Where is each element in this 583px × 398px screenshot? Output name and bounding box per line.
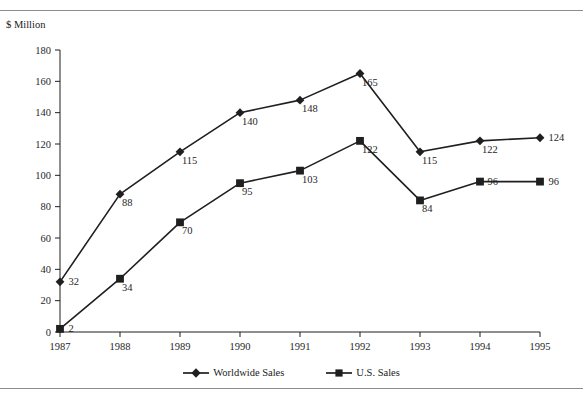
x-axis-tick-label: 1991: [290, 341, 311, 352]
data-point-marker-worldwide-sales: [56, 277, 65, 286]
data-point-marker-u-s-sales: [536, 178, 544, 186]
data-point-label-u-s-sales: 96: [548, 176, 559, 187]
series-line-worldwide-sales: [60, 74, 540, 282]
data-point-label-worldwide-sales: 140: [242, 116, 258, 127]
legend-label-worldwide-sales: Worldwide Sales: [213, 367, 284, 379]
y-axis-tick-label: 140: [35, 107, 51, 118]
data-point-label-u-s-sales: 103: [302, 174, 318, 185]
x-axis-tick-label: 1990: [230, 341, 251, 352]
line-chart-plot: 0204060801001201401601801987198819891990…: [0, 0, 583, 398]
square-marker-icon: [326, 367, 352, 379]
diamond-marker-icon: [183, 367, 209, 379]
y-axis-tick-label: 80: [41, 201, 52, 212]
legend-item-us-sales: U.S. Sales: [326, 367, 399, 379]
x-axis-tick-label: 1987: [50, 341, 71, 352]
bottom-divider-rule: [0, 388, 583, 389]
data-point-label-worldwide-sales: 122: [482, 144, 498, 155]
chart-legend: Worldwide Sales U.S. Sales: [0, 364, 583, 382]
x-axis-tick-label: 1993: [410, 341, 431, 352]
data-point-label-worldwide-sales: 165: [362, 77, 378, 88]
y-axis-tick-label: 120: [35, 139, 51, 150]
legend-item-worldwide-sales: Worldwide Sales: [183, 367, 284, 379]
y-axis-tick-label: 60: [41, 233, 52, 244]
data-point-label-u-s-sales: 122: [362, 144, 378, 155]
x-axis-tick-label: 1992: [350, 341, 371, 352]
y-axis-tick-label: 20: [41, 295, 52, 306]
data-point-label-u-s-sales: 96: [487, 176, 498, 187]
y-axis-tick-label: 0: [46, 327, 51, 338]
figure-page: Figure 1. Worldwide and U.S. Sales (Clip…: [0, 0, 583, 398]
data-point-label-worldwide-sales: 115: [422, 155, 437, 166]
data-point-label-u-s-sales: 2: [68, 323, 73, 334]
x-axis-tick-label: 1994: [470, 341, 492, 352]
data-point-label-worldwide-sales: 148: [302, 103, 318, 114]
data-point-label-worldwide-sales: 32: [68, 276, 79, 287]
data-point-label-u-s-sales: 95: [242, 186, 253, 197]
x-axis-tick-label: 1995: [530, 341, 551, 352]
data-point-label-u-s-sales: 84: [422, 203, 433, 214]
x-axis-tick-label: 1989: [170, 341, 191, 352]
x-axis-tick-label: 1988: [110, 341, 131, 352]
chart-svg: 0204060801001201401601801987198819891990…: [0, 0, 583, 398]
data-point-label-worldwide-sales: 115: [182, 155, 197, 166]
data-point-marker-worldwide-sales: [536, 133, 545, 142]
legend-label-us-sales: U.S. Sales: [356, 367, 399, 379]
data-point-label-worldwide-sales: 88: [122, 197, 133, 208]
data-point-marker-u-s-sales: [476, 178, 484, 186]
y-axis-tick-label: 40: [41, 264, 52, 275]
data-point-label-u-s-sales: 34: [122, 282, 133, 293]
data-point-label-worldwide-sales: 124: [548, 132, 565, 143]
y-axis-tick-label: 160: [35, 76, 51, 87]
data-point-label-u-s-sales: 70: [182, 225, 193, 236]
y-axis-tick-label: 100: [35, 170, 51, 181]
data-point-marker-u-s-sales: [56, 325, 64, 333]
y-axis-tick-label: 180: [35, 45, 51, 56]
